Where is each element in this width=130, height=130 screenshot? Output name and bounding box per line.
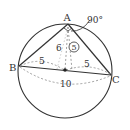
point-C-label: C (112, 74, 120, 85)
center-point (63, 68, 67, 72)
segment-BC-label: 10 (60, 79, 72, 89)
segment-BO-label: 5 (39, 56, 45, 66)
geometry-diagram: A B C 90° 6 5 5 5 10 (0, 0, 130, 130)
segment-OC-label: 5 (84, 59, 90, 69)
angle-label: 90° (87, 15, 103, 25)
radius-label: 5 (72, 43, 77, 52)
height-line (65, 27, 68, 70)
height-label: 6 (56, 43, 62, 53)
point-A-label: A (63, 12, 72, 23)
point-B-label: B (9, 62, 16, 73)
